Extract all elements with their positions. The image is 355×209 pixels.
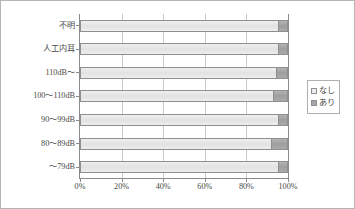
bar-segment-ari[interactable] xyxy=(278,20,288,32)
bar-track xyxy=(80,43,288,55)
bar-row: 不明 xyxy=(80,14,288,38)
gridline-100 xyxy=(288,14,289,178)
bar-track xyxy=(80,20,288,32)
bar-segment-ari[interactable] xyxy=(278,43,288,55)
y-axis-label: 100～110dB xyxy=(33,92,75,100)
bar-segment-nashi[interactable] xyxy=(80,67,276,79)
bar-track xyxy=(80,67,288,79)
bar-segment-ari[interactable] xyxy=(271,138,288,150)
legend-item-ari[interactable]: あり xyxy=(311,97,335,109)
x-axis-label: 20% xyxy=(114,183,129,191)
chart-container: 不明 人工内耳 110dB～ 10 xyxy=(0,0,355,209)
x-axis-label: 60% xyxy=(197,183,212,191)
legend-item-nashi[interactable]: なし xyxy=(311,85,335,97)
y-axis-label: 人工内耳 xyxy=(43,45,75,53)
bar-segment-nashi[interactable] xyxy=(80,90,273,102)
legend-swatch-ari-icon xyxy=(311,100,317,106)
y-axis-label: 90～99dB xyxy=(41,116,75,124)
bar-segment-ari[interactable] xyxy=(276,67,288,79)
y-axis-label: 80～89dB xyxy=(41,140,75,148)
bar-row: 100～110dB xyxy=(80,85,288,109)
chart-legend: なし あり xyxy=(307,80,340,114)
bar-track xyxy=(80,138,288,150)
bar-track xyxy=(80,161,288,173)
y-axis-label: 110dB～ xyxy=(45,69,75,77)
bar-segment-nashi[interactable] xyxy=(80,20,278,32)
bar-row: 人工内耳 xyxy=(80,38,288,62)
bar-track xyxy=(80,90,288,102)
bar-segment-ari[interactable] xyxy=(278,114,288,126)
x-axis-label: 80% xyxy=(239,183,254,191)
bar-segment-ari[interactable] xyxy=(278,161,288,173)
x-axis-label: 100% xyxy=(278,183,297,191)
bar-segment-nashi[interactable] xyxy=(80,114,278,126)
plot-area: 不明 人工内耳 110dB～ 10 xyxy=(79,14,288,179)
bar-segment-nashi[interactable] xyxy=(80,138,271,150)
bar-row: 110dB～ xyxy=(80,61,288,85)
y-axis-label: ～79dB xyxy=(49,163,75,171)
bar-row: 80～89dB xyxy=(80,132,288,156)
legend-label-nashi: なし xyxy=(319,85,335,97)
legend-swatch-nashi-icon xyxy=(311,88,317,94)
bar-segment-nashi[interactable] xyxy=(80,43,278,55)
bar-row: 90～99dB xyxy=(80,108,288,132)
x-axis-label: 40% xyxy=(156,183,171,191)
y-axis-label: 不明 xyxy=(59,22,75,30)
bar-segment-nashi[interactable] xyxy=(80,161,278,173)
bar-row: ～79dB xyxy=(80,155,288,179)
x-axis-label: 0% xyxy=(75,183,86,191)
bar-segment-ari[interactable] xyxy=(273,90,288,102)
bar-track xyxy=(80,114,288,126)
legend-label-ari: あり xyxy=(319,97,335,109)
